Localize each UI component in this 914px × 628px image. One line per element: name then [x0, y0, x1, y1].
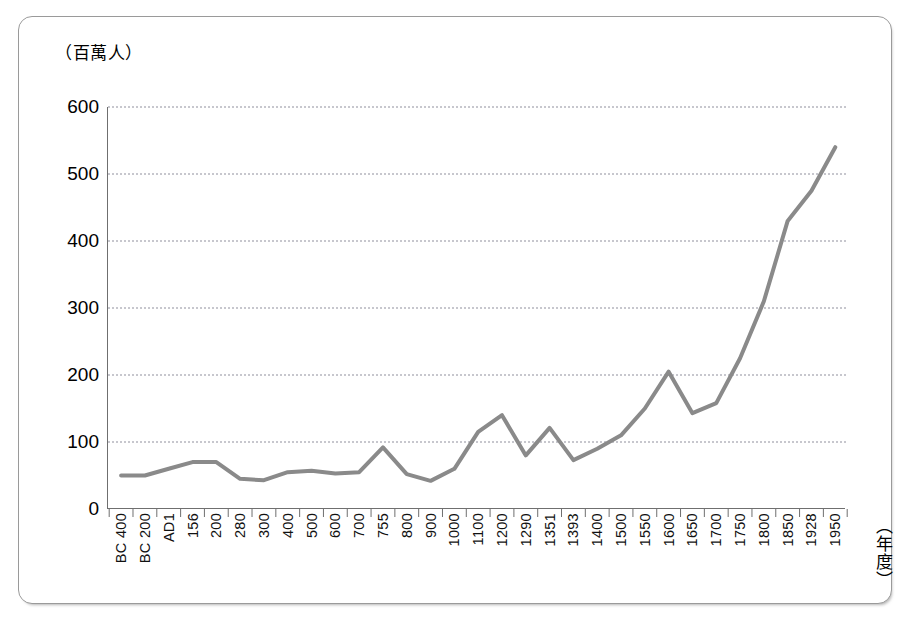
- x-tick-label: 1750: [732, 513, 748, 546]
- x-tick-label: BC 200: [137, 513, 153, 563]
- x-tick-label: 600: [327, 513, 343, 538]
- x-axis-labels: BC 400BC 200AD11562002803004005006007007…: [107, 513, 845, 583]
- x-tick-label: BC 400: [113, 513, 129, 563]
- plot-area: [107, 107, 845, 509]
- x-tick-label: 400: [280, 513, 296, 538]
- y-axis-units-caption: （百萬人）: [55, 39, 143, 64]
- x-tick-label: 1500: [613, 513, 629, 546]
- population-data-line: [121, 147, 835, 481]
- x-tick-label: 500: [304, 513, 320, 538]
- line-chart-svg: [108, 107, 846, 509]
- y-tick-label: 200: [29, 364, 99, 386]
- x-tick-label: 1200: [494, 513, 510, 546]
- gridlines: [108, 107, 846, 442]
- x-tick-label: 1928: [803, 513, 819, 546]
- x-tick-label: 300: [256, 513, 272, 538]
- x-tick-label: 200: [208, 513, 224, 538]
- x-tick-label: 1100: [470, 513, 486, 545]
- x-tick-label: 900: [423, 513, 439, 538]
- x-tick-label: 1700: [708, 513, 724, 546]
- y-tick-label: 400: [29, 230, 99, 252]
- figure-frame: （百萬人） 0100200300400500600 BC 400BC 200AD…: [18, 16, 892, 604]
- footnote-text: [24, 612, 584, 626]
- x-tick-label: 1550: [637, 513, 653, 546]
- x-tick-label: 1950: [827, 513, 843, 546]
- x-tick-label: 800: [399, 513, 415, 538]
- y-tick-label: 0: [29, 498, 99, 520]
- y-tick-label: 100: [29, 431, 99, 453]
- y-tick-label: 600: [29, 96, 99, 118]
- x-tick-label: AD1: [161, 513, 177, 542]
- y-tick-label: 500: [29, 163, 99, 185]
- x-tick-label: 1600: [661, 513, 677, 546]
- x-tick-label: 1290: [518, 513, 534, 546]
- x-tick-label: 280: [232, 513, 248, 538]
- x-tick-label: 1400: [589, 513, 605, 546]
- x-tick-label: 156: [185, 513, 201, 538]
- x-tick-label: 1850: [780, 513, 796, 546]
- y-axis-labels: 0100200300400500600: [27, 107, 99, 509]
- x-tick-label: 700: [351, 513, 367, 538]
- x-tick-label: 755: [375, 513, 391, 538]
- x-tick-label: 1000: [446, 513, 462, 546]
- x-tick-label: 1800: [756, 513, 772, 546]
- x-tick-label: 1393: [565, 513, 581, 546]
- x-axis-title: （年度）: [871, 517, 896, 589]
- y-tick-label: 300: [29, 297, 99, 319]
- x-tick-label: 1650: [684, 513, 700, 546]
- x-tick-label: 1351: [542, 513, 558, 546]
